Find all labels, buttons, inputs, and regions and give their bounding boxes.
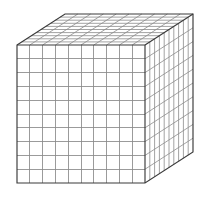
figure-stage: Base-Ten Thousand Cube A large cube draw…: [0, 0, 210, 204]
face-fills: [17, 14, 193, 183]
thousand-cube-figure: [0, 0, 210, 204]
